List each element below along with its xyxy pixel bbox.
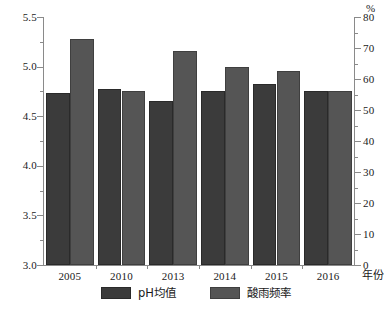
- right-tick-label: 40: [363, 136, 374, 147]
- chart-legend: pH均值酸雨频率: [0, 287, 392, 299]
- right-tick-label: 20: [363, 198, 374, 209]
- x-tick-label: 2014: [199, 270, 251, 282]
- x-tick-label: 2013: [147, 270, 199, 282]
- right-tick-major: [355, 17, 361, 18]
- x-tick-label: 2010: [96, 270, 148, 282]
- legend-swatch-ph-mean: [101, 287, 131, 299]
- acid-rain-bar-chart: % 5.55.04.54.03.53.0 80706050403020100 2…: [0, 0, 392, 316]
- right-tick-minor: [355, 219, 358, 220]
- bottom-tick: [251, 265, 252, 269]
- bar-acid-rain-frequency: [70, 39, 94, 265]
- right-tick-minor: [355, 188, 358, 189]
- bottom-tick: [96, 265, 97, 269]
- x-tick-label: 2015: [251, 270, 303, 282]
- right-tick-label: 30: [363, 167, 374, 178]
- right-tick-major: [355, 172, 361, 173]
- left-tick-minor: [40, 191, 43, 192]
- right-tick-minor: [355, 157, 358, 158]
- legend-item: pH均值: [101, 287, 176, 299]
- right-tick-major: [355, 79, 361, 80]
- right-tick-label: 50: [363, 105, 374, 116]
- left-tick-major: [37, 67, 43, 68]
- bar-acid-rain-frequency: [277, 71, 301, 265]
- bar-acid-rain-frequency: [122, 91, 146, 265]
- left-tick-major: [37, 116, 43, 117]
- left-tick-major: [37, 215, 43, 216]
- right-tick-minor: [355, 64, 358, 65]
- left-tick-label: 3.5: [3, 210, 37, 221]
- right-tick-label: 10: [363, 229, 374, 240]
- right-tick-major: [355, 48, 361, 49]
- legend-swatch-acid-rain-frequency: [210, 287, 240, 299]
- bar-ph-mean: [304, 91, 328, 265]
- bottom-tick: [199, 265, 200, 269]
- legend-label: pH均值: [138, 287, 176, 299]
- bar-ph-mean: [201, 91, 225, 265]
- left-tick-minor: [40, 141, 43, 142]
- right-tick-minor: [355, 33, 358, 34]
- bottom-tick: [147, 265, 148, 269]
- right-tick-minor: [355, 250, 358, 251]
- left-tick-label: 4.0: [3, 160, 37, 171]
- bottom-tick: [302, 265, 303, 269]
- left-tick-major: [37, 265, 43, 266]
- left-tick-label: 5.0: [3, 61, 37, 72]
- bar-ph-mean: [46, 93, 70, 265]
- left-tick-minor: [40, 240, 43, 241]
- right-tick-major: [355, 203, 361, 204]
- left-tick-minor: [40, 91, 43, 92]
- bar-ph-mean: [149, 101, 173, 265]
- bar-acid-rain-frequency: [173, 51, 197, 265]
- bar-ph-mean: [98, 89, 122, 265]
- right-tick-label: 60: [363, 74, 374, 85]
- bar-acid-rain-frequency: [328, 91, 352, 265]
- x-tick-label: 2016: [302, 270, 354, 282]
- legend-label: 酸雨频率: [247, 287, 291, 299]
- right-tick-minor: [355, 95, 358, 96]
- bar-ph-mean: [253, 84, 277, 265]
- right-tick-label: 80: [363, 12, 374, 23]
- plot-area: [44, 17, 354, 265]
- right-tick-minor: [355, 126, 358, 127]
- x-axis-title: 年份: [362, 270, 384, 282]
- right-tick-label: 70: [363, 43, 374, 54]
- left-tick-minor: [40, 42, 43, 43]
- right-tick-major: [355, 234, 361, 235]
- right-tick-major: [355, 265, 361, 266]
- right-tick-major: [355, 141, 361, 142]
- left-tick-major: [37, 166, 43, 167]
- left-tick-major: [37, 17, 43, 18]
- bar-acid-rain-frequency: [225, 67, 249, 265]
- x-tick-label: 2005: [44, 270, 96, 282]
- left-tick-label: 3.0: [3, 260, 37, 271]
- left-tick-label: 4.5: [3, 111, 37, 122]
- right-tick-major: [355, 110, 361, 111]
- legend-item: 酸雨频率: [210, 287, 291, 299]
- left-tick-label: 5.5: [3, 12, 37, 23]
